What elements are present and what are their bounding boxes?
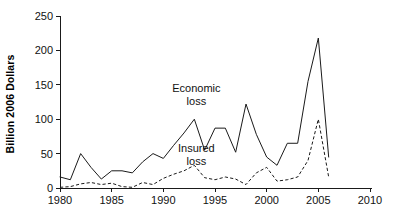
x-tick-label: 1980: [48, 194, 72, 206]
y-tick-label: 50: [41, 148, 53, 160]
y-tick-label: 100: [35, 113, 53, 125]
x-tick-label: 1995: [203, 194, 227, 206]
y-tick-label: 250: [35, 10, 53, 22]
loss-trend-line-chart: 050100150200250 198019851990199520002005…: [0, 0, 394, 224]
chart-container: 050100150200250 198019851990199520002005…: [0, 0, 394, 224]
y-axis-title: Billion 2006 Dollars: [4, 55, 16, 154]
y-tick-label: 0: [47, 182, 53, 194]
y-tick-label: 150: [35, 79, 53, 91]
y-axis-title-text: Billion 2006 Dollars: [4, 55, 16, 154]
y-tick-label: 200: [35, 44, 53, 56]
x-tick-label: 2005: [306, 194, 330, 206]
x-tick-label: 2010: [358, 194, 382, 206]
chart-background: [0, 0, 394, 224]
x-tick-label: 1985: [99, 194, 123, 206]
x-tick-label: 2000: [254, 194, 278, 206]
x-tick-label: 1990: [151, 194, 175, 206]
